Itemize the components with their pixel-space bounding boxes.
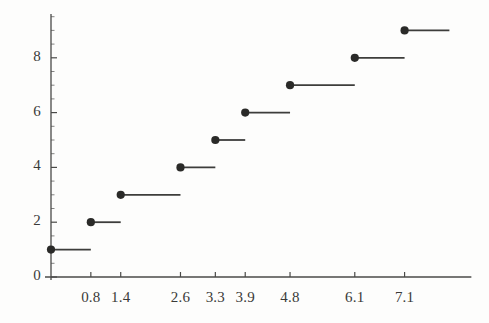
data-point-marker — [87, 218, 95, 226]
data-point-marker — [47, 246, 55, 254]
axes-group — [45, 14, 471, 280]
x-tick-label: 4.8 — [270, 289, 310, 306]
step-plot-svg — [0, 0, 489, 323]
y-tick-label: 4 — [13, 157, 41, 174]
x-tick-label: 1.4 — [101, 289, 141, 306]
step-segments-group — [51, 30, 449, 249]
x-tick-label: 3.9 — [225, 289, 265, 306]
data-point-marker — [117, 191, 125, 199]
data-point-marker — [286, 81, 294, 89]
x-tick-label: 6.1 — [335, 289, 375, 306]
data-point-marker — [400, 26, 408, 34]
y-tick-label: 8 — [13, 48, 41, 65]
x-tick-label: 7.1 — [385, 289, 425, 306]
y-tick-label: 0 — [13, 267, 41, 284]
chart-figure: 02468 0.81.42.63.33.94.86.17.1 — [0, 0, 489, 323]
data-point-marker — [176, 163, 184, 171]
data-point-marker — [241, 109, 249, 117]
y-tick-label: 2 — [13, 212, 41, 229]
y-tick-label: 6 — [13, 103, 41, 120]
data-point-marker — [351, 54, 359, 62]
data-point-marker — [211, 136, 219, 144]
